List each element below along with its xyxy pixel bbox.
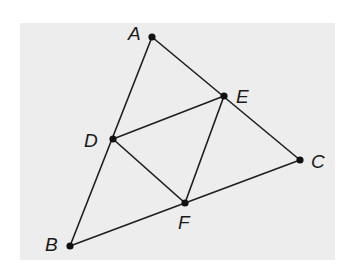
point-c [296,156,303,163]
labels-group: A B C D E F [45,23,325,255]
triangle-diagram: A B C D E F [0,0,343,269]
point-e [220,92,227,99]
label-b: B [45,234,58,255]
point-d [109,135,116,142]
segment-df [113,139,185,203]
point-b [66,242,73,249]
label-a: A [127,23,141,44]
label-d: D [84,130,98,151]
label-c: C [311,151,325,172]
label-f: F [178,212,191,233]
point-a [148,33,155,40]
segment-ef [185,96,224,203]
label-e: E [236,86,249,107]
point-f [181,199,188,206]
segment-de [113,96,224,139]
